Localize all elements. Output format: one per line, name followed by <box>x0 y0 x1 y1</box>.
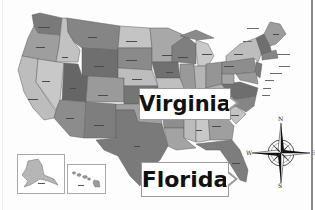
florida-callout-pointer-fill <box>226 172 235 186</box>
virginia-callout-pointer-fill <box>228 97 236 109</box>
us-map: N S E W Virginia Florida <box>0 0 315 210</box>
state-wyoming <box>82 48 118 78</box>
compass-n: N <box>278 115 283 122</box>
compass-points <box>252 123 310 183</box>
state-nebraska <box>118 68 158 86</box>
hawaii-inset <box>67 164 106 194</box>
alaska-shape <box>22 159 58 187</box>
state-michigan <box>196 40 214 66</box>
compass-s: S <box>278 182 282 189</box>
state-south-dakota <box>118 48 152 70</box>
state-new-mexico <box>84 102 116 138</box>
florida-callout: Florida <box>141 162 229 197</box>
hawaii-islands <box>72 172 100 187</box>
virginia-callout: Virginia <box>139 88 231 120</box>
compass-rose: N S E W <box>246 118 315 188</box>
virginia-label: Virginia <box>140 89 230 119</box>
state-iowa <box>152 62 180 78</box>
right-frame-border <box>311 0 313 210</box>
state-north-dakota <box>118 26 152 48</box>
alaska-inset <box>17 154 65 194</box>
compass-w: W <box>246 149 252 156</box>
florida-label: Florida <box>142 163 228 196</box>
state-colorado <box>86 76 124 102</box>
state-ohio <box>206 62 222 88</box>
